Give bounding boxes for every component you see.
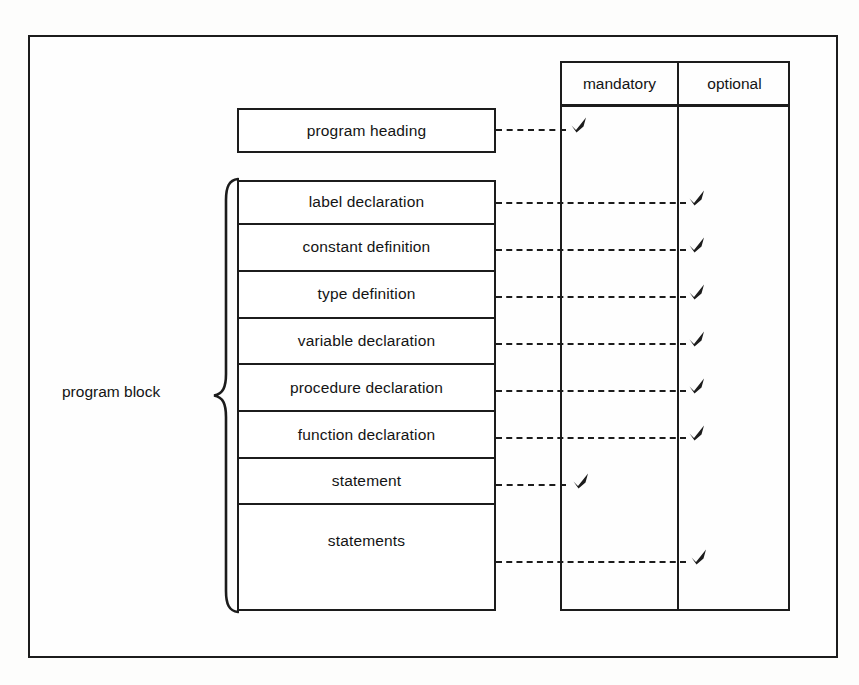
column-header-optional: optional [679,63,790,104]
block-row-function-declaration: function declaration [239,412,494,459]
block-row-label: variable declaration [298,332,435,350]
connector-program-heading [496,129,566,131]
connector-procedure-declaration [496,390,686,392]
program-block-label: program block [62,383,202,401]
checkmark-icon-function-declaration-optional [688,425,706,441]
column-header-mandatory: mandatory [562,63,677,104]
block-row-label-declaration: label declaration [239,182,494,225]
program-block-brace [211,176,239,615]
connector-statements [496,561,686,563]
block-row-label: constant definition [303,238,431,256]
checkmark-icon-label-declaration-optional [688,190,706,206]
cropped-caption-text [0,0,859,8]
block-row-type-definition: type definition [239,272,494,320]
connector-statement [496,484,566,486]
program-heading-box: program heading [237,108,496,153]
block-row-procedure-declaration: procedure declaration [239,365,494,412]
checkmark-icon-statement-mandatory [572,473,590,489]
program-block-stack: label declaration constant definition ty… [237,180,496,611]
checkmark-icon-procedure-declaration-optional [688,378,706,394]
block-row-label: statements [328,532,405,550]
requirement-table: mandatory optional [560,61,790,611]
block-row-statements: statements [239,505,494,608]
connector-function-declaration [496,437,686,439]
block-row-label: label declaration [309,193,424,211]
block-row-label: type definition [318,285,416,303]
checkmark-icon-constant-definition-optional [688,237,706,253]
connector-type-definition [496,296,686,298]
checkmark-icon-statements-optional [690,549,708,565]
block-row-statement: statement [239,459,494,505]
block-row-label: function declaration [298,426,435,444]
block-row-variable-declaration: variable declaration [239,319,494,365]
connector-label-declaration [496,202,686,204]
figure-page: program heading program block label decl… [0,0,859,685]
block-row-label: statement [332,472,401,490]
program-heading-label: program heading [307,122,426,140]
table-header-rule [562,104,788,107]
checkmark-icon-variable-declaration-optional [688,331,706,347]
connector-variable-declaration [496,343,686,345]
connector-constant-definition [496,249,686,251]
table-column-divider [677,63,679,609]
block-row-constant-definition: constant definition [239,225,494,272]
block-row-label: procedure declaration [290,379,443,397]
checkmark-icon-type-definition-optional [688,284,706,300]
checkmark-icon-program-heading-mandatory [570,117,588,133]
